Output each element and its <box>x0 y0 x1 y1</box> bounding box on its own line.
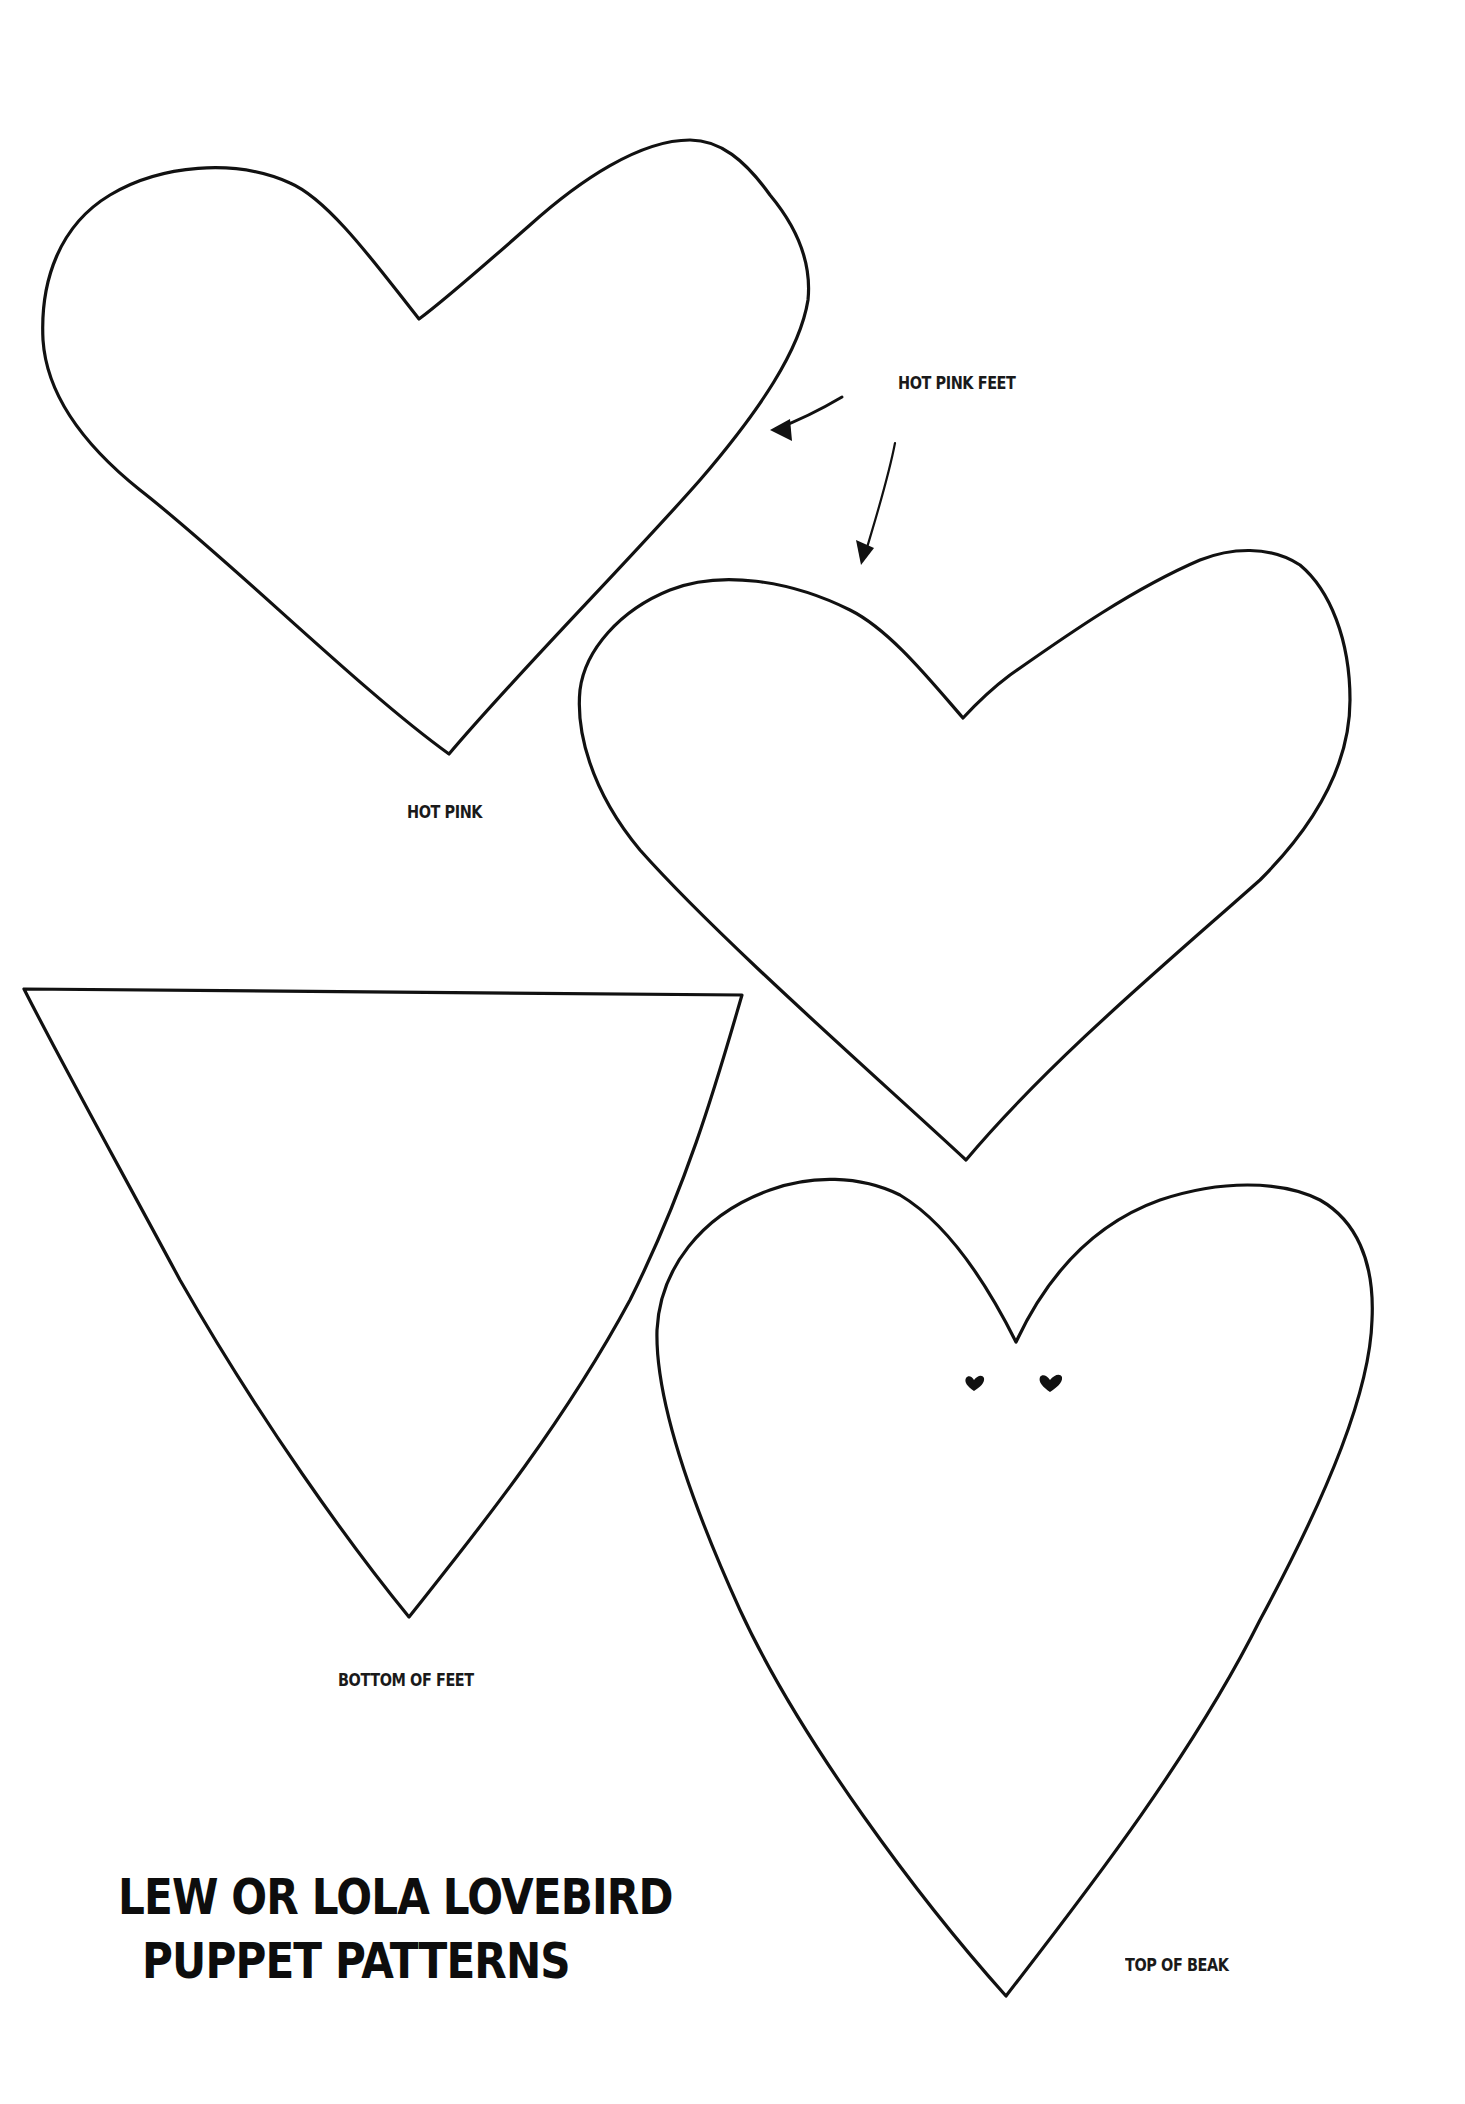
page-title-line-1: LEW OR LOLA LOVEBIRD <box>118 1873 673 1922</box>
heart-large-left-outline <box>43 140 809 754</box>
heart-beak-outline <box>657 1179 1372 1996</box>
triangle-bottom-of-feet-outline <box>24 989 742 1617</box>
eye-heart-right-icon <box>1040 1375 1063 1392</box>
eye-heart-left-icon <box>965 1376 984 1391</box>
label-hot-pink-feet: HOT PINK FEET <box>898 373 1015 393</box>
arrow-to-heart-right <box>864 443 895 558</box>
heart-right-outline <box>579 550 1350 1160</box>
label-bottom-of-feet: BOTTOM OF FEET <box>338 1670 474 1690</box>
arrowhead-left-icon <box>770 419 792 441</box>
arrowhead-down-icon <box>856 540 874 565</box>
label-top-of-beak: TOP OF BEAK <box>1125 1955 1229 1975</box>
label-hot-pink: HOT PINK <box>407 802 482 822</box>
page-title-line-2: PUPPET PATTERNS <box>142 1937 570 1986</box>
pattern-drawing <box>0 0 1465 2104</box>
